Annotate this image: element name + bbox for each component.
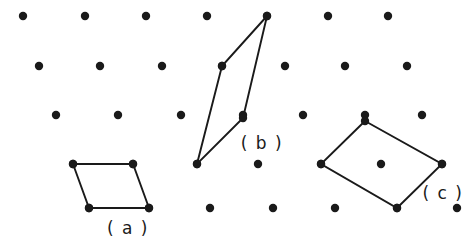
lattice-point [453, 204, 461, 212]
lattice-canvas [0, 0, 475, 251]
lattice-point [177, 111, 185, 119]
lattice-point [81, 12, 89, 20]
lattice-point [114, 111, 122, 119]
lattice-point [206, 204, 214, 212]
unit-cell-label-a: ( a ) [107, 218, 149, 238]
unit-cell-vertex-point [317, 160, 325, 168]
unit-cell-vertex-point [263, 12, 271, 20]
unit-cell-vertex-point [438, 160, 446, 168]
lattice-point [299, 111, 307, 119]
unit-cell-vertex-point [193, 160, 201, 168]
unit-cell-vertex-point [85, 204, 93, 212]
lattice-point [384, 12, 392, 20]
unit-cell-outline-a [73, 164, 149, 208]
unit-cell-label-b: ( b ) [241, 133, 283, 153]
lattice-point [331, 204, 339, 212]
lattice-point [19, 12, 27, 20]
lattice-point [203, 12, 211, 20]
lattice-point [158, 62, 166, 70]
unit-cell-vertex-point [361, 117, 369, 125]
lattice-point-group [19, 12, 461, 212]
lattice-point [52, 111, 60, 119]
lattice-point [418, 111, 426, 119]
unit-cell-vertex-point [145, 204, 153, 212]
lattice-point [281, 62, 289, 70]
lattice-point [341, 62, 349, 70]
lattice-figure: ( a )( b )( c ) [0, 0, 475, 251]
unit-cell-vertex-point [69, 160, 77, 168]
unit-cell-vertex-point [393, 204, 401, 212]
unit-cell-vertex-point [218, 62, 226, 70]
lattice-point [96, 62, 104, 70]
lattice-point [142, 12, 150, 20]
unit-cell-vertex-point [239, 114, 247, 122]
lattice-point [324, 12, 332, 20]
unit-cell-outline-group [69, 12, 446, 212]
unit-cell-vertex-point [129, 160, 137, 168]
lattice-point [269, 204, 277, 212]
unit-cell-label-c: ( c ) [423, 183, 464, 203]
lattice-point [403, 62, 411, 70]
lattice-point [377, 160, 385, 168]
lattice-point [254, 160, 262, 168]
lattice-point [35, 62, 43, 70]
